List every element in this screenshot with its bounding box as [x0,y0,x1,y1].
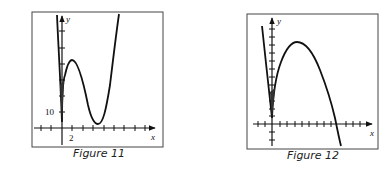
figure-11-caption: Figure 11 [73,147,125,160]
figure-11-x-tick-label: 2 [69,133,74,143]
figure-11-frame [32,12,163,147]
figure-11-y-tick-label: 10 [45,107,55,117]
figure-12-caption: Figure 12 [287,149,339,162]
figure-11-x-label: x [150,132,155,142]
figure-12-y-label: y [276,16,281,26]
figure-12: y x [247,14,378,149]
figure-12-curve [262,26,341,146]
figure-12-frame [247,14,378,149]
figure-11: y x 10 2 [32,12,163,147]
figure-11-curve [57,14,119,124]
figure-11-y-label: y [65,14,70,24]
figure-12-x-label: x [369,128,374,138]
